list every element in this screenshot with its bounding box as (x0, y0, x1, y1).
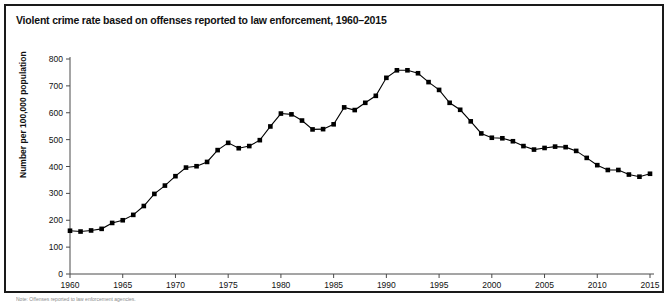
x-axis-tick-label: 1970 (166, 280, 185, 290)
data-point-marker (321, 127, 326, 132)
x-axis-tick-label: 2000 (482, 280, 501, 290)
data-point-marker (405, 68, 410, 73)
data-point-marker (511, 139, 516, 144)
data-point-marker (300, 118, 305, 123)
data-point-marker (521, 144, 526, 149)
data-point-marker (395, 68, 400, 73)
x-axis-tick-label: 1980 (271, 280, 290, 290)
data-point-marker (352, 108, 357, 113)
chart-plot-area: 0100200300400500600700800 19601965197019… (6, 6, 666, 295)
x-axis-tick-label: 1975 (219, 280, 238, 290)
data-point-marker (258, 138, 263, 143)
data-point-marker (584, 156, 589, 161)
y-axis-tick-label: 800 (49, 54, 63, 64)
violent-crime-line-chart: 0100200300400500600700800 19601965197019… (6, 6, 666, 295)
data-point-marker (490, 135, 495, 140)
data-point-marker (532, 147, 537, 152)
data-point-marker (152, 192, 157, 197)
data-point-marker (131, 213, 136, 218)
y-axis-tick-labels: 0100200300400500600700800 (49, 54, 63, 279)
data-point-marker (616, 168, 621, 173)
data-point-marker (68, 228, 73, 233)
data-point-marker (194, 164, 199, 169)
data-point-marker (606, 168, 611, 173)
data-point-marker (468, 119, 473, 124)
x-axis-tick-label: 1985 (324, 280, 343, 290)
y-axis-tick-label: 700 (49, 81, 63, 91)
data-point-marker (342, 105, 347, 110)
data-point-marker (542, 146, 547, 151)
y-axis-tick-label: 500 (49, 135, 63, 145)
data-point-marker (563, 145, 568, 150)
data-point-marker (479, 131, 484, 136)
data-point-marker (637, 174, 642, 179)
y-axis-tick-label: 200 (49, 215, 63, 225)
data-point-marker (78, 229, 83, 234)
data-point-marker (458, 107, 463, 112)
data-point-marker (595, 163, 600, 168)
data-point-marker (99, 227, 104, 232)
data-point-marker (205, 160, 210, 165)
data-point-marker (89, 228, 94, 233)
data-point-marker (310, 127, 315, 132)
data-point-marker (447, 101, 452, 106)
x-axis-tick-label: 1995 (430, 280, 449, 290)
x-axis-tick-label: 1960 (61, 280, 80, 290)
data-point-marker (120, 218, 125, 223)
data-point-marker (384, 76, 389, 81)
data-point-marker (331, 122, 336, 127)
y-axis-tick-label: 100 (49, 242, 63, 252)
figure-panel: Violent crime rate based on offenses rep… (4, 4, 664, 293)
series-line (70, 70, 650, 231)
data-point-marker (374, 94, 379, 99)
x-axis-tick-label: 2015 (641, 280, 660, 290)
data-point-marker (363, 101, 368, 106)
data-point-marker (236, 146, 241, 151)
x-axis-tick-label: 1990 (377, 280, 396, 290)
y-axis-tick-label: 0 (58, 269, 63, 279)
data-point-marker (426, 80, 431, 85)
x-axis-tick-label: 2005 (535, 280, 554, 290)
data-point-marker (247, 144, 252, 149)
series-markers (68, 68, 653, 234)
x-axis-tick-labels: 1960196519701975198019851990199520002005… (61, 280, 660, 290)
x-axis-tick-label: 1965 (113, 280, 132, 290)
data-point-marker (289, 112, 294, 117)
data-point-marker (279, 111, 284, 116)
data-point-marker (184, 165, 189, 170)
data-point-marker (226, 141, 231, 146)
data-point-marker (648, 171, 653, 176)
data-point-marker (437, 88, 442, 93)
data-point-marker (163, 183, 168, 188)
data-point-marker (553, 144, 558, 149)
y-axis-ticks (66, 59, 70, 274)
data-point-marker (574, 149, 579, 154)
data-point-marker (142, 204, 147, 209)
y-axis-tick-label: 400 (49, 162, 63, 172)
data-point-marker (268, 124, 273, 129)
figure-note: Note: Offenses reported to law enforceme… (16, 296, 656, 302)
data-point-marker (215, 148, 220, 153)
y-axis-label: Number per 100,000 population (18, 51, 28, 178)
y-axis-tick-label: 300 (49, 188, 63, 198)
data-point-marker (627, 172, 632, 177)
y-axis-tick-label: 600 (49, 108, 63, 118)
data-point-marker (110, 221, 115, 226)
x-axis-tick-label: 2010 (588, 280, 607, 290)
data-point-marker (416, 71, 421, 76)
data-point-marker (173, 174, 178, 179)
data-point-marker (500, 136, 505, 141)
x-axis-ticks (70, 274, 650, 278)
